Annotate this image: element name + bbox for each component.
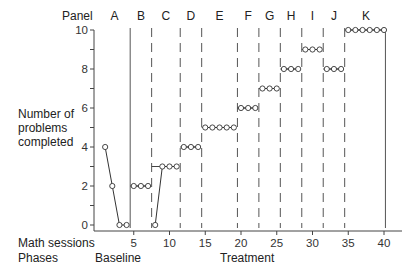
data-point (188, 144, 193, 149)
data-point (238, 105, 243, 110)
panel-row-label: Panel (62, 9, 93, 23)
phases-row-label: Phases (18, 251, 58, 265)
data-series (103, 27, 387, 227)
panel-label-i: I (311, 9, 314, 23)
data-point (160, 164, 165, 169)
data-point (360, 27, 365, 32)
data-point (317, 47, 322, 52)
axes: 0246810510152025303540 (75, 24, 402, 249)
data-point (246, 105, 251, 110)
data-point (288, 66, 293, 71)
data-point (217, 125, 222, 130)
data-point (367, 27, 372, 32)
y-tick-label: 4 (82, 141, 89, 153)
data-point (110, 183, 115, 188)
data-point (138, 183, 143, 188)
data-point (203, 125, 208, 130)
x-tick-label: 40 (378, 237, 391, 249)
x-tick-label: 35 (342, 237, 355, 249)
panel-label-d: D (187, 9, 196, 23)
data-point (324, 66, 329, 71)
data-point (103, 144, 108, 149)
panel-label-a: A (110, 9, 118, 23)
y-tick-label: 0 (82, 219, 88, 231)
data-point (346, 27, 351, 32)
panel-label-b: B (137, 9, 145, 23)
x-tick-label: 25 (270, 237, 283, 249)
data-point (117, 222, 122, 227)
data-point (210, 125, 215, 130)
x-axis-label: Math sessions (18, 236, 95, 250)
y-axis-label: Number of problems completed (18, 107, 75, 149)
panel-label-j: J (331, 9, 337, 23)
y-tick-label: 2 (82, 180, 88, 192)
data-point (296, 66, 301, 71)
data-point (231, 125, 236, 130)
data-point (303, 47, 308, 52)
y-tick-label: 6 (82, 102, 88, 114)
data-point (224, 125, 229, 130)
data-line-c (155, 167, 176, 226)
y-tick-label: 10 (75, 24, 88, 36)
panel-label-h: H (287, 9, 296, 23)
y-axis-label-line2: problems (18, 121, 67, 135)
y-axis-label-line3: completed (18, 135, 73, 149)
data-point (181, 144, 186, 149)
x-tick-label: 15 (199, 237, 212, 249)
x-tick-label: 5 (131, 237, 137, 249)
phase-label-treatment: Treatment (220, 251, 275, 265)
y-tick-label: 8 (82, 63, 88, 75)
x-tick-label: 30 (306, 237, 319, 249)
panel-label-c: C (162, 9, 171, 23)
data-point (274, 86, 279, 91)
data-point (267, 86, 272, 91)
data-point (196, 144, 201, 149)
panel-labels: ABCDEFGHIJK (110, 9, 370, 23)
x-tick-label: 10 (163, 237, 176, 249)
data-point (253, 105, 258, 110)
data-point (339, 66, 344, 71)
panel-label-e: E (216, 9, 224, 23)
data-point (153, 222, 158, 227)
data-point (174, 164, 179, 169)
data-point (281, 66, 286, 71)
data-point (331, 66, 336, 71)
phase-change-lines (130, 28, 385, 228)
data-point (124, 222, 129, 227)
data-point (381, 27, 386, 32)
panel-label-k: K (362, 9, 370, 23)
panel-label-g: G (265, 9, 274, 23)
panel-label-f: F (244, 9, 251, 23)
y-axis-label-line1: Number of (18, 107, 75, 121)
changing-criterion-chart: ABCDEFGHIJK Panel Number of problems com… (0, 0, 420, 274)
data-point (353, 27, 358, 32)
x-tick-label: 20 (235, 237, 248, 249)
phase-label-baseline: Baseline (95, 251, 141, 265)
data-line-a (105, 147, 126, 225)
data-point (145, 183, 150, 188)
data-point (167, 164, 172, 169)
data-point (374, 27, 379, 32)
data-point (310, 47, 315, 52)
data-point (260, 86, 265, 91)
data-point (131, 183, 136, 188)
